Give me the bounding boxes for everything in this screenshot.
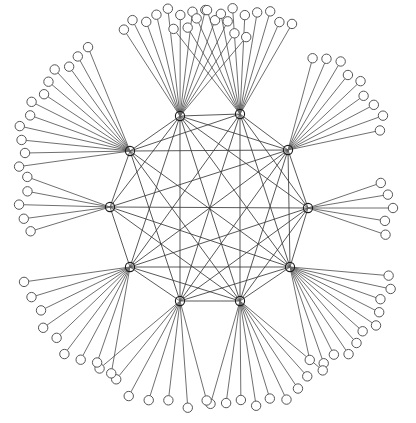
leaf-node — [380, 216, 389, 225]
leaf-node — [20, 148, 29, 157]
hub-node — [235, 109, 244, 118]
leaf-node — [329, 350, 338, 359]
leaf-node — [216, 9, 225, 18]
leaf-node — [223, 17, 232, 26]
leaf-node — [303, 372, 312, 381]
leaf-node — [25, 111, 34, 120]
leaf-node — [192, 14, 201, 23]
leaf-node — [336, 57, 345, 66]
leaf-node — [39, 90, 48, 99]
leaf-node — [64, 62, 73, 71]
leaf-node — [119, 25, 128, 34]
leaf-node — [265, 394, 274, 403]
leaf-node — [358, 327, 367, 336]
network-graph-canvas — [0, 0, 416, 423]
leaf-node — [19, 214, 28, 223]
hub-node — [303, 203, 312, 212]
leaf-node — [27, 292, 36, 301]
leaf-node — [230, 29, 239, 38]
leaf-node — [383, 190, 392, 199]
leaf-node — [83, 42, 92, 51]
leaf-node — [128, 15, 137, 24]
leaf-node — [15, 121, 24, 130]
leaf-node — [152, 10, 161, 19]
leaf-node — [375, 126, 384, 135]
leaf-node — [252, 8, 261, 17]
leaf-node — [92, 358, 101, 367]
leaf-node — [251, 401, 260, 410]
leaf-node — [183, 403, 192, 412]
leaf-node — [17, 135, 26, 144]
leaf-node — [142, 17, 151, 26]
leaf-node — [293, 384, 302, 393]
leaf-node — [381, 230, 390, 239]
hub-node — [175, 296, 184, 305]
network-graph-figure — [0, 0, 416, 423]
leaf-node — [376, 295, 385, 304]
leaf-node — [169, 24, 178, 33]
leaf-node — [240, 10, 249, 19]
leaf-node — [386, 284, 395, 293]
hub-node — [283, 145, 292, 154]
leaf-node — [202, 5, 211, 14]
leaf-node — [202, 396, 211, 405]
leaf-node — [266, 7, 275, 16]
leaf-node — [352, 338, 361, 347]
leaf-node — [376, 178, 385, 187]
hub-node — [105, 202, 114, 211]
leaf-node — [176, 10, 185, 19]
leaf-node — [359, 91, 368, 100]
leaf-node — [384, 271, 393, 280]
leaf-node — [26, 227, 35, 236]
leaf-node — [38, 323, 47, 332]
leaf-node — [44, 77, 53, 86]
leaf-node — [144, 395, 153, 404]
leaf-node — [164, 396, 173, 405]
leaf-node — [23, 172, 32, 181]
leaf-node — [322, 54, 331, 63]
leaf-node — [343, 70, 352, 79]
hub-node — [235, 296, 244, 305]
hub-node — [285, 262, 294, 271]
leaf-node — [163, 4, 172, 13]
leaf-node — [183, 23, 192, 32]
leaf-node — [124, 391, 133, 400]
leaf-node — [318, 366, 327, 375]
leaf-node — [23, 187, 32, 196]
leaf-node — [344, 349, 353, 358]
leaf-node — [275, 17, 284, 26]
leaf-node — [19, 277, 28, 286]
graph-background — [0, 0, 416, 423]
leaf-node — [228, 4, 237, 13]
leaf-node — [287, 19, 296, 28]
leaf-node — [76, 355, 85, 364]
leaf-node — [308, 54, 317, 63]
hub-node — [125, 262, 134, 271]
leaf-node — [52, 333, 61, 342]
leaf-node — [27, 97, 36, 106]
leaf-node — [50, 65, 59, 74]
leaf-node — [378, 111, 387, 120]
leaf-node — [369, 100, 378, 109]
leaf-node — [356, 76, 365, 85]
leaf-node — [282, 395, 291, 404]
leaf-node — [242, 32, 251, 41]
leaf-node — [14, 200, 23, 209]
leaf-node — [73, 52, 82, 61]
hub-node — [125, 146, 134, 155]
leaf-node — [60, 349, 69, 358]
hub-node — [175, 111, 184, 120]
leaf-node — [371, 321, 380, 330]
leaf-node — [107, 369, 116, 378]
leaf-node — [221, 398, 230, 407]
leaf-node — [14, 162, 23, 171]
leaf-node — [374, 308, 383, 317]
leaf-node — [388, 203, 397, 212]
leaf-node — [305, 355, 314, 364]
leaf-node — [236, 395, 245, 404]
leaf-node — [36, 306, 45, 315]
